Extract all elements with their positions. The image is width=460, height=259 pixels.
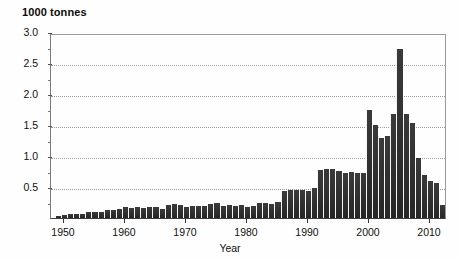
x-axis-tick-label: 2010 — [409, 226, 449, 238]
x-axis-tick-mark — [307, 219, 308, 223]
y-axis-tick-mark — [48, 33, 52, 34]
chart-figure: 1000 tonnes 3.02.52.01.51.00.5 195019601… — [0, 0, 460, 259]
y-axis-tick-mark — [48, 126, 52, 127]
bar-series — [51, 35, 445, 218]
x-axis-tick-label: 1950 — [43, 226, 83, 238]
y-axis-minor-tick — [48, 173, 51, 174]
bar — [439, 205, 445, 218]
y-axis-tick-mark — [48, 157, 52, 158]
y-axis-tick-label: 2.0 — [23, 88, 38, 100]
x-axis-tick-mark — [246, 219, 247, 223]
y-axis-minor-tick — [48, 49, 51, 50]
y-axis-minor-tick — [48, 111, 51, 112]
y-axis-tick-mark — [48, 95, 52, 96]
x-axis-tick-label: 1990 — [287, 226, 327, 238]
x-axis-title: Year — [0, 242, 460, 254]
x-axis-tick-mark — [185, 219, 186, 223]
y-axis-minor-tick — [48, 142, 51, 143]
x-axis-tick-mark — [429, 219, 430, 223]
y-axis-tick-mark — [48, 188, 52, 189]
y-axis-tick-label: 3.0 — [23, 26, 38, 38]
y-axis-minor-tick — [48, 204, 51, 205]
y-axis-tick-mark — [48, 64, 52, 65]
x-axis-tick-label: 1980 — [226, 226, 266, 238]
y-axis-labels: 3.02.52.01.51.00.5 — [0, 0, 46, 259]
plot-area — [50, 34, 446, 219]
x-axis-tick-mark — [368, 219, 369, 223]
x-axis-tick-mark — [63, 219, 64, 223]
y-axis-tick-label: 1.0 — [23, 150, 38, 162]
x-axis-tick-label: 2000 — [348, 226, 388, 238]
y-axis-tick-label: 2.5 — [23, 57, 38, 69]
x-axis-tick-label: 1960 — [104, 226, 144, 238]
y-axis-tick-label: 0.5 — [23, 181, 38, 193]
x-axis-tick-mark — [124, 219, 125, 223]
y-axis-tick-label: 1.5 — [23, 119, 38, 131]
x-axis-tick-label: 1970 — [165, 226, 205, 238]
y-axis-minor-tick — [48, 80, 51, 81]
